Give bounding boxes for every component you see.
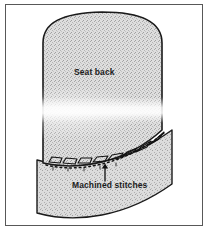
figure-root: Seat back Machined stitches [0,0,209,232]
seat-back-panel [43,12,162,166]
diagram-canvas: Seat back Machined stitches [6,5,202,225]
label-machined-stitches: Machined stitches [72,181,147,190]
label-seat-back: Seat back [74,68,115,77]
seat-diagram [6,5,203,226]
figure-frame: Seat back Machined stitches [5,4,203,226]
